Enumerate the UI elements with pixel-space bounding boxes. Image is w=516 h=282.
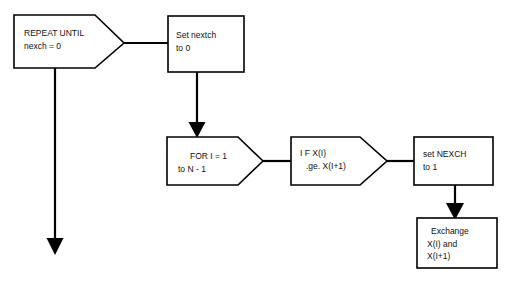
set-nextch-line-1: Set nextch xyxy=(176,30,216,40)
for-loop-line-2: to N - 1 xyxy=(178,164,206,174)
for-loop-line-1: FOR I = 1 xyxy=(190,151,227,161)
set-nexch-1-line-1: set NEXCH xyxy=(423,149,466,159)
exchange-line-2: X(I) and xyxy=(427,239,458,249)
repeat-until-line-2: nexch = 0 xyxy=(24,41,61,51)
arrowhead-down-loopback xyxy=(47,238,64,255)
exchange-line-1: Exchange xyxy=(431,226,469,236)
set-nextch-line-2: to 0 xyxy=(176,43,190,53)
exchange-line-3: X(I+1) xyxy=(427,251,451,261)
for-loop-shape xyxy=(167,137,263,185)
node-set-nextch[interactable]: Set nextch to 0 xyxy=(168,16,244,72)
connector-repeat-loop-back xyxy=(47,68,64,255)
set-nexch-1-line-2: to 1 xyxy=(423,162,437,172)
node-exchange[interactable]: Exchange X(I) and X(I+1) xyxy=(417,218,497,268)
node-set-nexch-1[interactable]: set NEXCH to 1 xyxy=(414,137,493,185)
node-for-loop[interactable]: FOR I = 1 to N - 1 xyxy=(167,137,263,185)
flowchart-canvas: REPEAT UNTIL nexch = 0 Set nextch to 0 F… xyxy=(0,0,516,282)
if-condition-line-2: .ge. X(I+1) xyxy=(306,161,346,171)
node-repeat-until[interactable]: REPEAT UNTIL nexch = 0 xyxy=(14,15,124,68)
arrowhead-down-to-for xyxy=(189,122,206,138)
flowchart-svg: REPEAT UNTIL nexch = 0 Set nextch to 0 F… xyxy=(0,0,516,282)
if-condition-line-1: I F X(I) xyxy=(300,148,326,158)
node-if-condition[interactable]: I F X(I) .ge. X(I+1) xyxy=(291,137,387,185)
connector-set-nextch-to-for xyxy=(189,72,206,138)
repeat-until-line-1: REPEAT UNTIL xyxy=(24,28,84,38)
connector-set-nexch-to-exchange xyxy=(446,185,464,220)
